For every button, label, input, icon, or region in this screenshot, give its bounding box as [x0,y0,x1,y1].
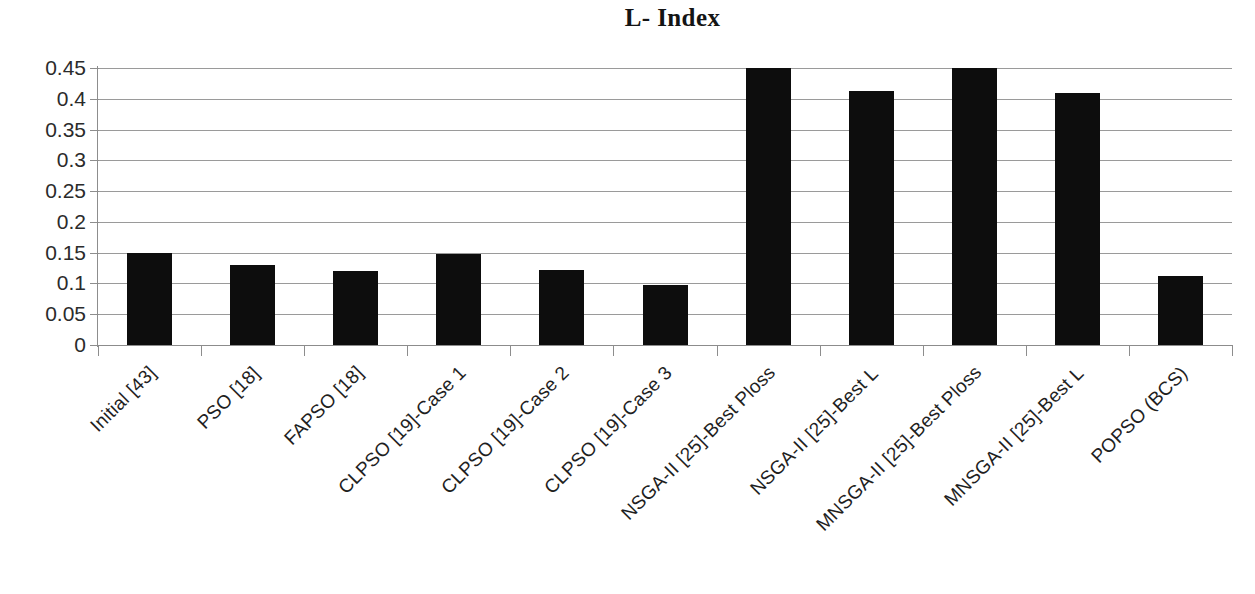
x-axis-tick-label: PSO [18] [193,362,264,433]
y-axis-tick [90,68,99,69]
y-axis-tick-label: 0 [8,334,86,355]
y-axis-tick-label: 0.35 [8,119,86,140]
x-axis-tick [1026,345,1027,356]
bar [333,271,378,345]
x-axis-tick-label: MNSGA-II [25]-Best L [940,362,1088,510]
bar [1158,276,1203,345]
x-axis-tick-label: CLPSO [19]-Case 1 [334,362,471,499]
y-axis-tick-label: 0.05 [8,303,86,324]
chart-title: L- Index [0,4,1255,32]
x-axis-tick-label: POPSO (BCS) [1087,362,1192,467]
x-axis-tick [510,345,511,356]
bar [230,265,275,345]
x-axis-tick [717,345,718,356]
x-axis-tick [407,345,408,356]
y-axis-tick [90,283,99,284]
x-axis-tick-label: NSGA-II [25]-Best Ploss [617,362,780,525]
y-axis-tick-label: 0.3 [8,149,86,170]
x-axis-tick [820,345,821,356]
bar [1055,93,1100,345]
x-axis-tick [98,345,99,356]
x-axis-tick-label: CLPSO [19]-Case 3 [540,362,677,499]
y-axis-tick-label: 0.4 [8,88,86,109]
y-axis-tick-label: 0.15 [8,242,86,263]
x-axis-tick [1129,345,1130,356]
x-axis-tick-label: NSGA-II [25]-Best L [746,362,883,499]
y-axis-tick [90,314,99,315]
x-axis-tick [923,345,924,356]
bar [952,68,997,345]
x-axis-tick [304,345,305,356]
plot-area [98,68,1232,345]
y-axis-tick [90,99,99,100]
y-axis-tick [90,222,99,223]
y-axis-tick [90,345,99,346]
x-axis-tick-label: Initial [43] [86,362,161,437]
y-axis-tick-label: 0.25 [8,180,86,201]
y-axis-tick [90,160,99,161]
x-axis-tick-label: FAPSO [18] [280,362,368,450]
y-axis-tick-label: 0.1 [8,272,86,293]
bar [127,253,172,345]
y-axis-tick [90,191,99,192]
y-axis-tick [90,130,99,131]
x-axis-tick [613,345,614,356]
x-axis-tick-label: MNSGA-II [25]-Best Ploss [812,362,986,536]
gridline [98,345,1232,346]
x-axis-tick [1232,345,1233,356]
x-axis-tick-label: CLPSO [19]-Case 2 [437,362,574,499]
y-axis-tick-labels: 0.450.40.350.30.250.20.150.10.050 [0,0,86,594]
y-axis-tick [90,253,99,254]
y-axis-tick-label: 0.45 [8,57,86,78]
bar [643,285,688,345]
bar [849,91,894,345]
bar [539,270,584,345]
l-index-bar-chart: L- Index 0.450.40.350.30.250.20.150.10.0… [0,0,1255,594]
bar [746,68,791,345]
bar [436,254,481,345]
y-axis-tick-label: 0.2 [8,211,86,232]
x-axis-tick [201,345,202,356]
gridline [98,68,1232,69]
